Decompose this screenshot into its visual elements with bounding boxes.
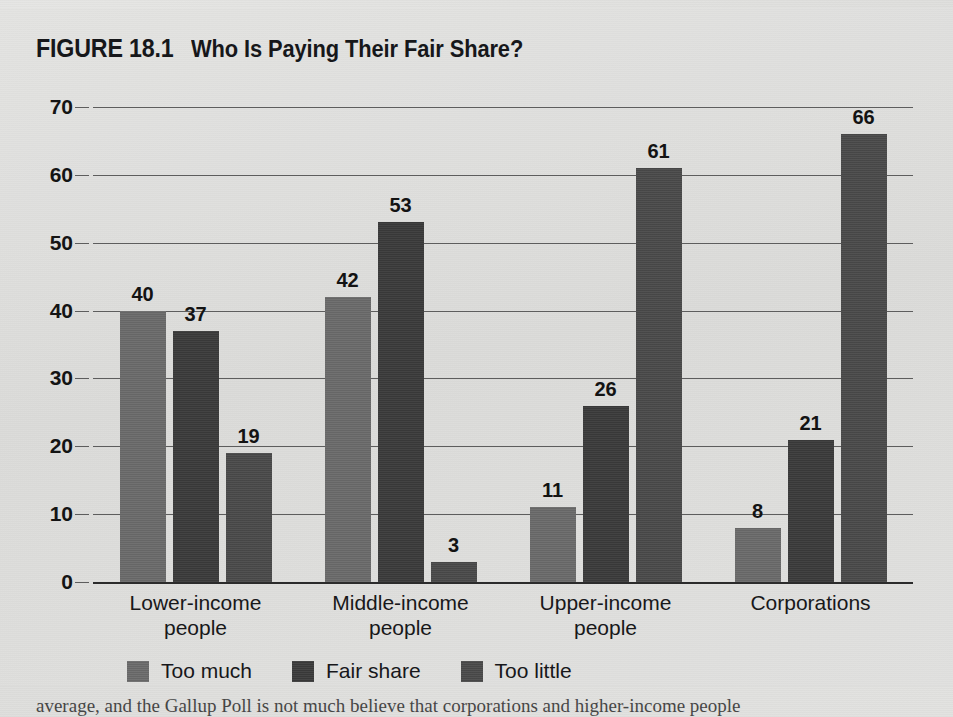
category-label-line: Middle-income [298,590,503,615]
legend-item[interactable]: Fair share [292,659,421,683]
x-axis-category-labels: Lower-incomepeopleMiddle-incomepeopleUpp… [93,590,913,648]
category-label-line: Corporations [708,590,913,615]
bar[interactable] [226,453,272,582]
bar-column[interactable]: 42 [325,107,371,582]
bar-value-label: 11 [542,479,563,502]
bar[interactable] [788,440,834,583]
bar-column[interactable]: 26 [583,107,629,582]
bar-column[interactable]: 11 [530,107,576,582]
y-tick-mark-10 [75,514,89,515]
chart-legend: Too muchFair shareToo little [127,659,572,683]
bar-column[interactable]: 37 [173,107,219,582]
bar-group: 42533 [298,107,503,582]
bar-value-label: 40 [131,283,153,306]
gridline-0 [93,582,913,584]
bar-column[interactable]: 61 [636,107,682,582]
y-tick-mark-0 [75,582,89,583]
bar[interactable] [636,168,682,582]
bar-group: 112661 [503,107,708,582]
legend-swatch-icon [292,661,314,682]
bar-value-label: 19 [237,425,259,448]
legend-label: Too much [161,659,252,683]
bar-group: 403719 [93,107,298,582]
legend-item[interactable]: Too much [127,659,252,683]
category-label-line: Lower-income [93,590,298,615]
y-axis-tick-label: 40 [50,299,73,323]
legend-swatch-icon [127,661,149,682]
x-axis-category-label: Corporations [708,590,913,615]
legend-swatch-icon [461,661,483,682]
figure-number: FIGURE 18.1 [36,34,174,63]
bar[interactable] [325,297,371,582]
bar-column[interactable]: 8 [735,107,781,582]
y-axis-tick-label: 70 [50,95,73,119]
bar-column[interactable]: 40 [120,107,166,582]
category-label-line: people [298,615,503,640]
page-title: FIGURE 18.1Who Is Paying Their Fair Shar… [36,34,541,63]
bar[interactable] [841,134,887,582]
x-axis-category-label: Lower-incomepeople [93,590,298,640]
bar[interactable] [583,406,629,582]
y-tick-mark-60 [75,175,89,176]
bar[interactable] [378,222,424,582]
bar-column[interactable]: 21 [788,107,834,582]
bar-value-label: 42 [336,269,358,292]
y-axis-tick-label: 30 [50,366,73,390]
y-axis-tick-label: 20 [50,434,73,458]
bar-column[interactable]: 3 [431,107,477,582]
caption-clipped-row: average, and the Gallup Poll is not much… [0,697,953,717]
figure-panel: FIGURE 18.1Who Is Paying Their Fair Shar… [0,8,953,686]
bar-column[interactable]: 66 [841,107,887,582]
bar-value-label: 21 [799,412,821,435]
category-label-line: people [503,615,708,640]
bar[interactable] [530,507,576,582]
bar-group: 82166 [708,107,913,582]
bar-value-label: 3 [448,534,459,557]
y-axis-tick-label: 60 [50,163,73,187]
caption-text: average, and the Gallup Poll is not much… [36,697,741,717]
bar-value-label: 26 [594,378,616,401]
bar-value-label: 37 [184,303,206,326]
figure-title-text: Who Is Paying Their Fair Share? [191,36,523,63]
y-tick-mark-40 [75,311,89,312]
y-axis-tick-label: 0 [61,570,73,594]
y-tick-mark-70 [75,107,89,108]
bar-value-label: 53 [389,194,411,217]
y-tick-mark-50 [75,243,89,244]
bar[interactable] [735,528,781,582]
legend-label: Too little [495,659,572,683]
legend-label: Fair share [326,659,421,683]
y-axis-tick-label: 50 [50,231,73,255]
chart-plot-area: 0102030405060704037194253311266182166 [93,107,913,582]
bar-value-label: 8 [752,500,763,523]
bar[interactable] [120,311,166,582]
category-label-line: people [93,615,298,640]
y-axis-tick-label: 10 [50,502,73,526]
y-tick-mark-20 [75,446,89,447]
bar-column[interactable]: 53 [378,107,424,582]
y-tick-mark-30 [75,378,89,379]
bar[interactable] [431,562,477,582]
category-label-line: Upper-income [503,590,708,615]
legend-item[interactable]: Too little [461,659,572,683]
bar[interactable] [173,331,219,582]
bar-value-label: 66 [852,106,874,129]
bar-value-label: 61 [647,140,669,163]
x-axis-category-label: Upper-incomepeople [503,590,708,640]
x-axis-category-label: Middle-incomepeople [298,590,503,640]
bar-column[interactable]: 19 [226,107,272,582]
